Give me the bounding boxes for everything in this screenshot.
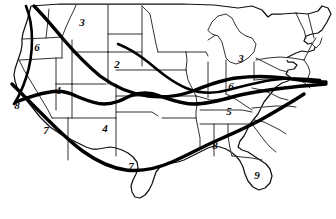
zone-label-5-upper-south: 5 [226, 106, 232, 117]
zone-label-6-northwest: 6 [34, 42, 40, 53]
zone-label-1-great-basin: 1 [56, 85, 62, 96]
zone-label-8-california: 8 [14, 100, 20, 111]
zone-label-2-central-plains: 2 [114, 59, 120, 70]
us-route-map: 6 3 2 1 8 7 4 7 3 6 5 8 9 [0, 0, 336, 219]
zone-label-4-southern-plains: 4 [102, 123, 108, 134]
zone-label-9-florida: 9 [254, 170, 260, 181]
zone-label-6-lake-erie: 6 [228, 81, 234, 92]
zone-label-7-southwest: 7 [43, 125, 49, 136]
border-sc-ga [252, 124, 276, 152]
map-graphic [0, 0, 336, 219]
zone-label-7-texas: 7 [128, 161, 134, 172]
zone-label-3-great-lakes: 3 [238, 53, 244, 64]
zone-label-3-north-plains: 3 [79, 17, 85, 28]
zone-label-8-deep-south: 8 [212, 140, 218, 151]
border-nj-inner [304, 60, 310, 78]
